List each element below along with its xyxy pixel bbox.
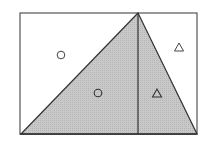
geometry-diagram [0, 0, 215, 149]
